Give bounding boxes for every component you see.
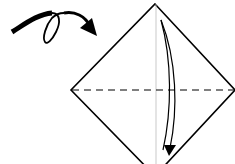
- origami-diagram: [0, 0, 235, 164]
- turn-over-arrow-icon: [12, 13, 97, 43]
- paper-diamond: [71, 4, 235, 164]
